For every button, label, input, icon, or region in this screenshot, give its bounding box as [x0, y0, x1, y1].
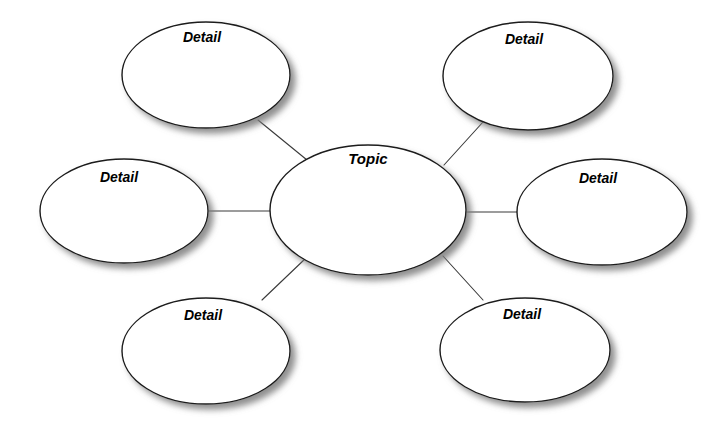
detail-middle-right-label: Detail — [579, 170, 618, 186]
node-topic[interactable]: Topic — [270, 145, 466, 275]
topic-label: Topic — [348, 150, 388, 167]
node-detail-bottom-right[interactable]: Detail — [440, 298, 610, 402]
connector-bottom-right — [443, 256, 483, 300]
concept-map-diagram: Detail Detail Detail Detail Detail Detai… — [0, 0, 724, 432]
node-detail-top-right[interactable]: Detail — [443, 22, 613, 130]
node-detail-bottom-left[interactable]: Detail — [122, 298, 290, 404]
concept-map-canvas: Detail Detail Detail Detail Detail Detai… — [0, 0, 724, 432]
connector-bottom-left — [262, 258, 306, 300]
node-detail-middle-left[interactable]: Detail — [40, 159, 208, 263]
node-detail-middle-right[interactable]: Detail — [517, 159, 687, 265]
connector-top-left — [258, 120, 307, 160]
detail-top-right-label: Detail — [505, 31, 544, 47]
detail-middle-left-label: Detail — [100, 169, 139, 185]
connector-top-right — [444, 122, 483, 165]
detail-bottom-right-label: Detail — [503, 306, 542, 322]
detail-top-left-label: Detail — [183, 29, 222, 45]
node-detail-top-left[interactable]: Detail — [122, 22, 290, 128]
detail-bottom-left-label: Detail — [184, 307, 223, 323]
